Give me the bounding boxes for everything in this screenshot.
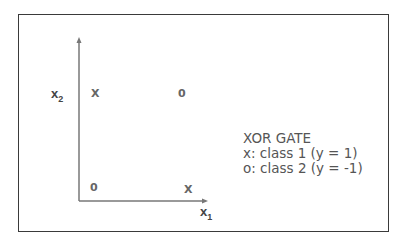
legend-class1: x: class 1 (y = 1) <box>243 146 363 161</box>
legend-class2: o: class 2 (y = -1) <box>243 161 363 176</box>
point-x-bottom-right: X <box>184 183 192 196</box>
x-axis-label: x1 <box>200 204 212 222</box>
x-axis-arrow-icon <box>202 199 208 204</box>
point-o-top-right: 0 <box>178 87 186 100</box>
legend: XOR GATE x: class 1 (y = 1) o: class 2 (… <box>243 131 363 176</box>
y-axis-arrow-icon <box>77 37 82 43</box>
legend-title: XOR GATE <box>243 131 363 146</box>
y-axis-label: x2 <box>51 86 63 104</box>
point-o-bottom-left: 0 <box>90 181 98 194</box>
point-x-top-left: X <box>91 87 99 100</box>
